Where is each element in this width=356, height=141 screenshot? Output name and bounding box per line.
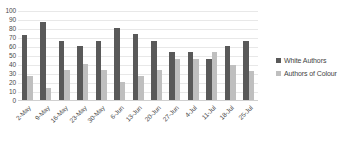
y-axis-tick-label: 80 <box>9 26 16 32</box>
legend-item[interactable]: Authors of Colour <box>276 70 337 77</box>
bar[interactable] <box>249 71 255 100</box>
x-axis-tick-label: 6-Jun <box>108 104 124 120</box>
legend-swatch-icon <box>276 71 281 76</box>
legend-label: White Authors <box>284 57 326 64</box>
bar[interactable] <box>46 88 52 100</box>
bar[interactable] <box>157 70 163 100</box>
y-axis-tick-label: 70 <box>9 35 16 41</box>
bar-group <box>240 11 258 100</box>
bar-groups <box>18 11 258 100</box>
bar-group <box>18 11 36 100</box>
y-axis-tick-label: 0 <box>12 98 16 104</box>
x-axis-tick: 20-Jun <box>147 103 165 141</box>
x-axis: 2-May9-May16-May23-May30-May6-Jun13-Jun2… <box>18 103 258 141</box>
y-axis-tick-label: 60 <box>9 44 16 50</box>
bar[interactable] <box>175 59 181 100</box>
bar[interactable] <box>83 64 89 100</box>
x-axis-tick: 4-Jul <box>184 103 202 141</box>
bar[interactable] <box>27 76 33 100</box>
bar[interactable] <box>101 70 107 100</box>
x-axis-tick: 11-Jul <box>203 103 221 141</box>
bar-group <box>92 11 110 100</box>
x-axis-tick: 6-Jun <box>110 103 128 141</box>
legend-item[interactable]: White Authors <box>276 57 337 64</box>
bar-group <box>221 11 239 100</box>
bar[interactable] <box>138 76 144 100</box>
bar-group <box>203 11 221 100</box>
bar[interactable] <box>120 82 126 100</box>
y-axis-tick-label: 50 <box>9 53 16 59</box>
x-axis-line <box>18 100 258 101</box>
bar[interactable] <box>64 70 70 100</box>
plot-area <box>18 11 258 101</box>
x-axis-tick-label: 4-Jul <box>184 104 199 119</box>
y-axis-tick-label: 30 <box>9 71 16 77</box>
y-axis-tick-label: 100 <box>5 8 16 14</box>
x-axis-tick: 25-Jul <box>240 103 258 141</box>
legend-label: Authors of Colour <box>284 70 337 77</box>
x-axis-tick: 18-Jul <box>221 103 239 141</box>
x-axis-tick: 13-Jun <box>129 103 147 141</box>
bar-group <box>110 11 128 100</box>
y-axis-tick-label: 40 <box>9 62 16 68</box>
x-axis-tick-label: 25-Jul <box>237 104 254 121</box>
legend-swatch-icon <box>276 58 281 63</box>
x-axis-tick-label: 2-May <box>15 104 32 121</box>
bar-group <box>55 11 73 100</box>
bar-group <box>36 11 54 100</box>
x-axis-tick: 27-Jun <box>166 103 184 141</box>
x-axis-tick: 2-May <box>18 103 36 141</box>
x-axis-tick-label: 18-Jul <box>218 104 235 121</box>
y-axis-tick-label: 10 <box>9 89 16 95</box>
y-axis-tick-label: 20 <box>9 80 16 86</box>
bar-group <box>147 11 165 100</box>
bar-group <box>166 11 184 100</box>
x-axis-tick-label: 11-Jul <box>200 104 217 121</box>
bar-group <box>129 11 147 100</box>
chart-legend: White AuthorsAuthors of Colour <box>276 57 337 77</box>
y-axis: 1009080706050403020100 <box>0 11 16 101</box>
x-axis-tick: 30-May <box>92 103 110 141</box>
bar-group <box>73 11 91 100</box>
bar[interactable] <box>212 52 218 100</box>
bar-group <box>184 11 202 100</box>
bar[interactable] <box>230 65 236 100</box>
bar[interactable] <box>193 59 199 100</box>
bar-chart: 1009080706050403020100 2-May9-May16-May2… <box>0 0 356 141</box>
y-axis-tick-label: 90 <box>9 17 16 23</box>
